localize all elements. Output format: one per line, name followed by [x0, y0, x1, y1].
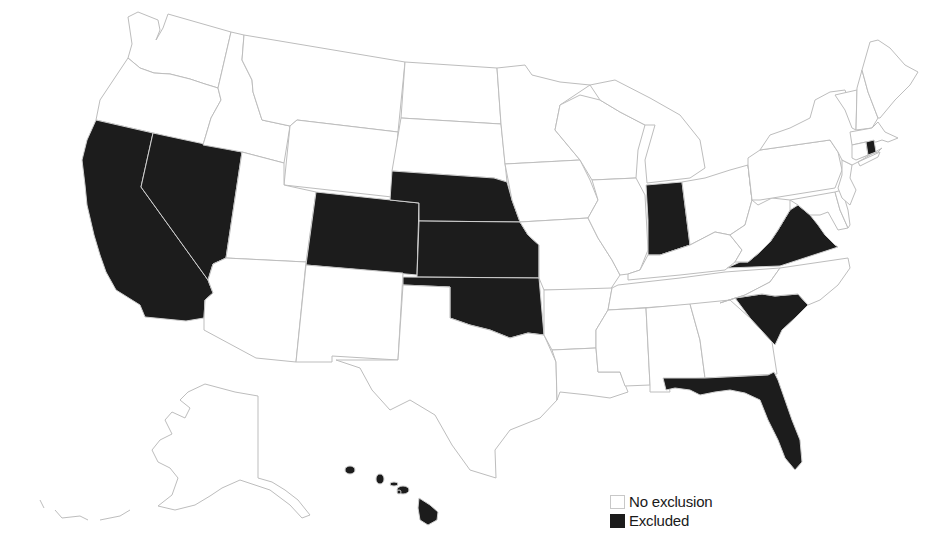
- state-north-dakota: [401, 62, 501, 124]
- state-arizona: [204, 258, 306, 362]
- state-montana: [242, 35, 405, 132]
- legend-item-excluded: Excluded: [610, 511, 712, 530]
- state-wyoming: [284, 120, 398, 197]
- state-colorado: [306, 192, 419, 275]
- legend-label-excluded: Excluded: [629, 512, 689, 529]
- map-legend: No exclusion Excluded: [610, 492, 712, 530]
- state-iowa: [505, 160, 598, 222]
- state-rhode-island: [866, 140, 876, 155]
- us-map: [0, 0, 945, 553]
- state-new-mexico: [296, 265, 403, 362]
- state-alaska-islands: [40, 500, 130, 520]
- legend-swatch-no-exclusion: [610, 495, 625, 509]
- legend-label-no-exclusion: No exclusion: [629, 493, 712, 510]
- legend-swatch-excluded: [610, 514, 625, 528]
- legend-item-no-exclusion: No exclusion: [610, 492, 712, 511]
- state-kansas: [417, 221, 539, 278]
- state-florida: [663, 372, 802, 470]
- state-alaska: [152, 384, 310, 518]
- state-hawaii: [345, 466, 438, 525]
